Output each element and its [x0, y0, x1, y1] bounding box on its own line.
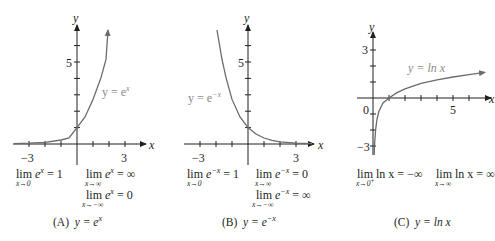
curve-label-c: y = ln x	[408, 62, 445, 74]
y-axis-label: y	[73, 12, 78, 24]
x-axis-label: x	[318, 139, 323, 151]
tick-label-y-3: 3	[362, 44, 368, 56]
panel-c-axes	[357, 32, 491, 155]
tick-label-y-5: 5	[238, 57, 244, 69]
tick-label-y-neg3: −3	[357, 141, 370, 153]
y-axis-label: y	[244, 12, 249, 24]
tick-label-x-neg3: −3	[21, 152, 34, 164]
caption-c: (C) y = ln x	[394, 217, 451, 229]
caption-b: (B) y = e−x	[222, 217, 276, 229]
curve-exp-x	[14, 30, 108, 144]
caption-a: (A) y = ex	[53, 217, 102, 229]
curve-label-b: y = e−x	[188, 92, 221, 104]
y-axis-label: y	[369, 21, 374, 33]
tick-label-x-3: 3	[293, 152, 299, 164]
tick-label-x-neg3: −3	[192, 152, 205, 164]
tick-label-x-0: 0	[363, 104, 369, 116]
tick-label-x-5: 5	[450, 104, 456, 116]
tick-label-x-3: 3	[121, 152, 127, 164]
curve-ln-x	[374, 72, 485, 155]
tick-label-y-5: 5	[66, 57, 72, 69]
curve-label-a: y = ex	[102, 86, 130, 98]
curve-exp-neg-x	[217, 30, 312, 144]
x-axis-label: x	[489, 93, 494, 105]
x-axis-label: x	[149, 139, 154, 151]
figure-graphics	[0, 0, 495, 241]
